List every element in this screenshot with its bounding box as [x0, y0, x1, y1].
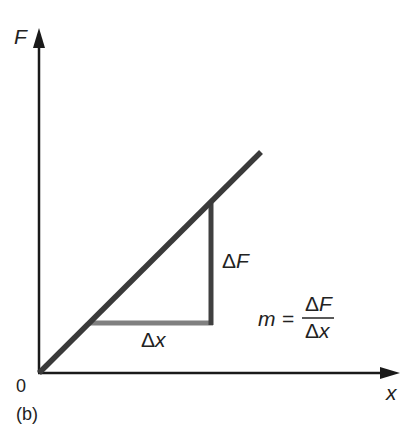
equation-denominator: Δx [305, 319, 331, 342]
delta-x-label: Δx [141, 328, 167, 351]
equation-numerator: ΔF [305, 292, 333, 315]
y-axis-arrowhead [33, 28, 45, 48]
delta-f-label: ΔF [222, 249, 250, 272]
equation-lhs: m [258, 307, 276, 330]
panel-label: (b) [16, 404, 38, 424]
slope-equation: m = ΔF Δx [258, 292, 334, 342]
origin-label: 0 [16, 376, 26, 396]
slope-diagram: F x 0 (b) ΔF Δx m = ΔF Δx [0, 0, 419, 445]
x-axis-arrowhead [380, 367, 400, 379]
equation-equals: = [282, 307, 294, 330]
x-axis-label: x [385, 381, 398, 404]
y-axis-label: F [14, 25, 28, 48]
